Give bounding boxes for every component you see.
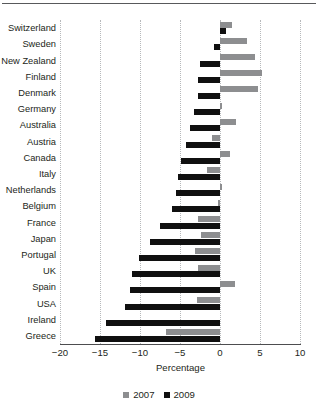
bar-2007 xyxy=(201,232,220,238)
y-axis-label: USA xyxy=(0,299,56,309)
bar-group xyxy=(60,182,300,198)
legend-swatch-icon xyxy=(123,392,129,398)
y-axis-label: Portugal xyxy=(0,250,56,260)
bar-group xyxy=(60,150,300,166)
bar-2009 xyxy=(194,109,220,115)
y-axis-label: Finland xyxy=(0,72,56,82)
bar-2009 xyxy=(125,304,220,310)
chart-figure: SwitzerlandSwedenNew ZealandFinlandDenma… xyxy=(0,0,318,414)
bar-2009 xyxy=(95,336,220,342)
legend-item: 2009 xyxy=(164,389,195,400)
bar-2009 xyxy=(198,77,220,83)
bar-2007 xyxy=(220,86,258,92)
plot-area xyxy=(60,20,300,344)
chart-legend: 20072009 xyxy=(0,389,318,400)
bar-group xyxy=(60,328,300,344)
bar-2009 xyxy=(198,93,220,99)
y-axis-label: Austria xyxy=(0,137,56,147)
bar-group xyxy=(60,263,300,279)
x-tick-label: 0 xyxy=(200,347,240,359)
bar-2007 xyxy=(218,200,220,206)
y-axis-label: Canada xyxy=(0,153,56,163)
bar-2009 xyxy=(214,44,220,50)
legend-item: 2007 xyxy=(123,389,154,400)
y-axis-label: Sweden xyxy=(0,39,56,49)
bar-2007 xyxy=(212,135,220,141)
bar-group xyxy=(60,85,300,101)
bar-group xyxy=(60,214,300,230)
bar-2009 xyxy=(176,190,220,196)
x-axis-tick-labels: −20−15−10−50510 xyxy=(0,347,318,361)
bar-2007 xyxy=(220,151,230,157)
y-axis-label: Australia xyxy=(0,120,56,130)
bar-group xyxy=(60,20,300,36)
bar-2007 xyxy=(220,103,222,109)
bar-group xyxy=(60,247,300,263)
x-axis-line xyxy=(60,344,301,345)
bar-2009 xyxy=(130,287,220,293)
bar-2009 xyxy=(150,239,220,245)
bar-2007 xyxy=(220,38,247,44)
bar-group xyxy=(60,198,300,214)
y-axis-label: New Zealand xyxy=(0,56,56,66)
bar-2009 xyxy=(106,320,220,326)
y-axis-label: UK xyxy=(0,266,56,276)
y-axis-label: Italy xyxy=(0,169,56,179)
top-divider-rule xyxy=(2,3,316,4)
bar-2009 xyxy=(186,142,220,148)
bar-2007 xyxy=(220,184,222,190)
x-tick-label: −15 xyxy=(80,347,120,359)
bar-2009 xyxy=(190,125,220,131)
bar-2007 xyxy=(197,297,220,303)
bar-2007 xyxy=(220,119,236,125)
y-axis-label: France xyxy=(0,218,56,228)
bar-2007 xyxy=(207,167,220,173)
bar-2007 xyxy=(198,216,220,222)
bar-2009 xyxy=(178,174,220,180)
x-tick-label: −5 xyxy=(160,347,200,359)
bar-group xyxy=(60,166,300,182)
x-axis-title: Percentage xyxy=(60,362,301,373)
y-axis-label: Netherlands xyxy=(0,185,56,195)
legend-label: 2007 xyxy=(133,389,154,400)
bar-group xyxy=(60,101,300,117)
y-axis-label: Denmark xyxy=(0,88,56,98)
y-axis-label: Japan xyxy=(0,234,56,244)
bar-2007 xyxy=(220,70,262,76)
x-tick-label: 10 xyxy=(280,347,318,359)
bar-group xyxy=(60,279,300,295)
bar-2009 xyxy=(132,271,220,277)
bar-2007 xyxy=(198,265,220,271)
bar-group xyxy=(60,52,300,68)
bar-2007 xyxy=(220,22,232,28)
bar-2009 xyxy=(160,223,220,229)
bar-2007 xyxy=(166,329,220,335)
bar-2009 xyxy=(172,206,220,212)
bar-2009 xyxy=(139,255,220,261)
legend-swatch-icon xyxy=(164,392,170,398)
x-tick-label: −20 xyxy=(40,347,80,359)
legend-label: 2009 xyxy=(174,389,195,400)
bar-group xyxy=(60,231,300,247)
bar-rows xyxy=(60,20,300,344)
bar-2009 xyxy=(220,28,226,34)
y-axis-label: Ireland xyxy=(0,315,56,325)
bar-2009 xyxy=(181,158,220,164)
y-axis-label: Germany xyxy=(0,104,56,114)
y-axis-label: Switzerland xyxy=(0,23,56,33)
bar-2009 xyxy=(200,61,220,67)
bar-group xyxy=(60,295,300,311)
x-tick-label: −10 xyxy=(120,347,160,359)
y-axis-label: Greece xyxy=(0,331,56,341)
bar-group xyxy=(60,312,300,328)
bar-2007 xyxy=(220,281,235,287)
bar-2007 xyxy=(195,248,220,254)
x-tick-label: 5 xyxy=(240,347,280,359)
bar-group xyxy=(60,117,300,133)
gridline-10 xyxy=(300,20,301,344)
bar-group xyxy=(60,69,300,85)
bar-group xyxy=(60,36,300,52)
y-axis-label: Spain xyxy=(0,282,56,292)
y-axis-category-labels: SwitzerlandSwedenNew ZealandFinlandDenma… xyxy=(0,20,56,344)
y-axis-label: Belgium xyxy=(0,201,56,211)
